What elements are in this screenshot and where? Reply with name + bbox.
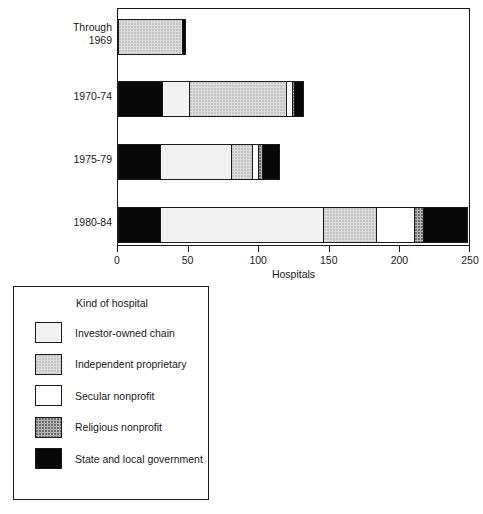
bars-layer [118,9,469,245]
bar-segment-independent-proprietary [323,207,377,243]
bar-segment-state-and-local-government [294,81,304,117]
bar-segment-state-and-local-government [262,144,280,180]
bar-segment-investor-owned-chain [160,207,322,243]
plot-area [117,8,470,246]
legend-item-investor-owned-chain[interactable]: Investor-owned chain [14,317,210,349]
x-tick-250 [469,246,470,252]
x-tick-50 [188,246,189,252]
x-tick-label-50: 50 [182,254,194,266]
x-tick-200 [399,246,400,252]
bar-1975-79 [118,144,280,180]
legend-item-state-and-local-government[interactable]: State and local government [14,443,210,475]
legend-item-independent-proprietary[interactable]: Independent proprietary [14,349,210,381]
bar-segment-state-and-local-government [118,207,160,243]
legend-item-label: Secular nonprofit [75,390,154,402]
bar-segment-state-and-local-government [423,207,468,243]
category-axis-labels: Through 1969 1970-74 1975-79 1980-84 [0,8,112,246]
legend-items: Investor-owned chainIndependent propriet… [14,317,210,475]
bar-1970-74 [118,81,304,117]
x-tick-label-150: 150 [320,254,338,266]
bar-segment-religious-nonprofit [414,207,422,243]
x-tick-150 [329,246,330,252]
x-tick-0 [117,246,118,252]
x-tick-label-200: 200 [391,254,409,266]
legend-item-label: Religious nonprofit [75,421,162,433]
bar-segment-state-and-local-government [118,81,162,117]
legend-item-label: Independent proprietary [75,358,187,370]
category-label-1980-84: 1980-84 [4,216,112,229]
x-tick-label-0: 0 [114,254,120,266]
legend-item-label: Investor-owned chain [75,327,175,339]
legend: Kind of hospital Investor-owned chainInd… [13,286,209,500]
x-tick-label-250: 250 [461,254,479,266]
x-tick-100 [258,246,259,252]
bar-1980-84 [118,207,468,243]
x-tick-label-100: 100 [249,254,267,266]
bar-segment-investor-owned-chain [160,144,231,180]
legend-item-religious-nonprofit[interactable]: Religious nonprofit [14,412,210,444]
bar-segment-independent-proprietary [189,81,286,117]
category-label-1975-79: 1975-79 [4,153,112,166]
bar-through-1969 [118,19,186,55]
legend-swatch-icon [35,417,62,438]
chart-figure: Through 1969 1970-74 1975-79 1980-84 050… [0,0,483,280]
legend-swatch-icon [35,322,62,343]
x-axis-title: Hospitals [117,268,470,280]
category-label-1970-74: 1970-74 [4,90,112,103]
legend-item-secular-nonprofit[interactable]: Secular nonprofit [14,380,210,412]
bar-segment-investor-owned-chain [162,81,189,117]
bar-segment-state-and-local-government [118,144,160,180]
legend-title: Kind of hospital [14,297,210,309]
legend-swatch-icon [35,354,62,375]
x-axis: 050100150200250 Hospitals [117,246,470,280]
bar-segment-state-and-local-government [182,19,186,55]
legend-swatch-icon [35,448,62,469]
bar-segment-independent-proprietary [231,144,252,180]
bar-segment-independent-proprietary [118,19,182,55]
legend-swatch-icon [35,385,62,406]
bar-segment-secular-nonprofit [376,207,414,243]
legend-item-label: State and local government [75,453,203,465]
category-label-through-1969: Through 1969 [4,21,112,46]
